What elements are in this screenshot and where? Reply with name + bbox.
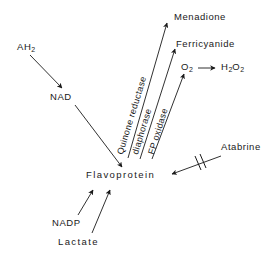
node-label-h2o2: H2O2 — [221, 62, 244, 73]
node-label-ah2: AH2 — [17, 42, 35, 53]
arrow-nad-to-flavoprotein — [75, 105, 122, 167]
node-label-nad: NAD — [50, 92, 72, 102]
node-label-o2: O2 — [181, 62, 193, 73]
node-label-menadione: Menadione — [174, 12, 226, 22]
node-label-nadp: NADP — [52, 218, 81, 228]
pathway-diagram: AH2 NAD Flavoprotein NADP Lactate Menadi… — [0, 0, 274, 256]
arrow-lactate-to-flavoprotein — [92, 190, 110, 233]
node-label-lactate: Lactate — [58, 237, 99, 247]
arrow-nadp-to-flavoprotein — [78, 190, 93, 215]
node-label-flavoprotein: Flavoprotein — [86, 170, 155, 180]
node-label-atabrine: Atabrine — [221, 142, 261, 152]
node-label-ferricyanide: Ferricyanide — [176, 39, 235, 49]
arrow-ah2-to-nad — [30, 55, 62, 88]
